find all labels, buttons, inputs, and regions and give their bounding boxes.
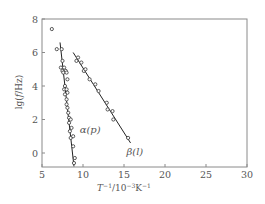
data-point [69, 118, 72, 121]
data-point [80, 61, 83, 64]
data-point [127, 136, 130, 139]
data-point [65, 103, 68, 106]
data-point [72, 161, 75, 164]
data-point [70, 126, 73, 129]
chart: 5101520253002468 α(p)β(l) lg(f/Hz) T−1/1… [0, 0, 265, 204]
data-point [63, 93, 66, 96]
data-point [61, 59, 64, 62]
x-tick-label: 10 [77, 169, 89, 180]
x-tick-label: 25 [200, 169, 212, 180]
series-labels: α(p)β(l) [80, 124, 144, 157]
data-point [105, 101, 108, 104]
data-point [65, 98, 68, 101]
data-point [62, 71, 65, 74]
data-point [63, 66, 66, 69]
data-point [88, 78, 91, 81]
data-point [68, 130, 71, 133]
data-point [72, 145, 75, 148]
data-point [66, 78, 69, 81]
x-tick-label: 5 [39, 169, 45, 180]
y-axis-label: lg(f/Hz) [14, 75, 24, 110]
data-point [84, 68, 87, 71]
series-label-beta: β(l) [125, 146, 143, 157]
data-point [59, 66, 62, 69]
data-point [60, 48, 63, 51]
fit-lines [60, 42, 131, 166]
data-point [50, 27, 53, 30]
data-point [67, 121, 70, 124]
data-point [65, 88, 68, 91]
y-tick-label: 0 [32, 148, 38, 159]
data-point [76, 56, 79, 59]
data-point [97, 89, 100, 92]
data-point [65, 71, 68, 74]
series-label-alpha: α(p) [80, 124, 101, 135]
data-point [73, 156, 76, 159]
data-point [72, 135, 75, 138]
data-point [67, 111, 70, 114]
data-point [106, 108, 109, 111]
data-point [111, 110, 114, 113]
x-axis-label: T−1/10−3K−1 [97, 182, 151, 194]
data-point [63, 84, 66, 87]
x-tick-label: 30 [241, 169, 253, 180]
y-tick-label: 6 [32, 47, 38, 58]
y-tick-label: 2 [32, 114, 38, 125]
y-tick-label: 8 [32, 14, 38, 25]
y-tick-label: 4 [32, 81, 38, 92]
data-point [112, 118, 115, 121]
data-point [94, 83, 97, 86]
x-tick-label: 20 [159, 169, 171, 180]
data-points [50, 27, 129, 164]
data-point [55, 48, 58, 51]
data-point [66, 106, 69, 109]
x-tick-label: 15 [118, 169, 130, 180]
data-point [75, 59, 78, 62]
